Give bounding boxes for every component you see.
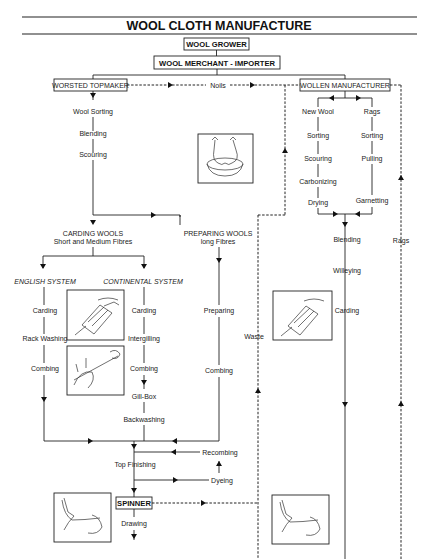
- carding-wools-subtitle: Short and Medium Fibres: [54, 238, 133, 245]
- preparing-wools-subtitle: long Fibres: [201, 238, 236, 246]
- continental-step-gill-box: Gill-Box: [132, 393, 157, 400]
- continental-system-label: CONTINENTAL SYSTEM: [103, 278, 183, 285]
- rags-side-label: Rags: [393, 237, 410, 245]
- hand-spinning-right-illustration: [272, 495, 329, 544]
- wollen-rags-garnetting: Garnetting: [356, 197, 389, 205]
- dyeing-label: Dyeing: [211, 477, 233, 485]
- wollen-rags-pulling: Pulling: [361, 155, 382, 163]
- step-preparing: Preparing: [204, 307, 234, 315]
- wollen-rags-sorting: Sorting: [361, 132, 383, 140]
- hand-spinning-left-illustration: [54, 493, 111, 542]
- wool-grower-label: WOOL GROWER: [186, 40, 247, 49]
- drawing-label: Drawing: [121, 520, 147, 528]
- worsted-topmaker-label: WORSTED TOPMAKER: [52, 82, 129, 89]
- hand-carding-illustration: [67, 290, 124, 340]
- continental-step-carding: Carding: [132, 307, 157, 315]
- wool-merchant-label: WOOL MERCHANT - IMPORTER: [159, 59, 275, 68]
- top-finishing-label: Top Finishing: [114, 461, 155, 469]
- wollen-new-wool-scouring: Scouring: [304, 155, 332, 163]
- english-step-carding: Carding: [33, 307, 58, 315]
- step-scouring: Scouring: [79, 151, 107, 159]
- english-system-label: ENGLISH SYSTEM: [14, 278, 76, 285]
- recombing-label: Recombing: [202, 449, 238, 457]
- wollen-carding: Carding: [335, 307, 360, 315]
- step-blending: Blending: [79, 130, 106, 138]
- english-step-combing: Combing: [31, 365, 59, 373]
- continental-step-backwashing: Backwashing: [123, 416, 164, 424]
- wollen-manufacturer-label: WOLLEN MANUFACTURER: [300, 82, 390, 89]
- wollen-new-wool-carbonizing: Carbonizing: [299, 178, 336, 186]
- step-wool-sorting: Wool Sorting: [73, 108, 113, 116]
- diagram-title: WOOL CLOTH MANUFACTURE: [126, 19, 311, 33]
- wollen-rags: Rags: [364, 108, 381, 116]
- waste-label: Waste: [244, 333, 264, 340]
- carding-wools-title: CARDING WOOLS: [63, 230, 124, 237]
- scouring-illustration: [198, 134, 253, 183]
- wollen-new-wool-sorting: Sorting: [307, 132, 329, 140]
- spinner-label: SPINNER: [117, 499, 151, 508]
- preparing-wools-title: PREPARING WOOLS: [184, 230, 253, 237]
- english-step-rack-washing: Rack Washing: [23, 335, 68, 343]
- wollen-blending: Blending: [333, 236, 360, 244]
- step-preparing-combing: Combing: [205, 367, 233, 375]
- continental-step-combing: Combing: [130, 365, 158, 373]
- continental-step-intergilling: Intergilling: [128, 335, 160, 343]
- noils-label: Noils: [210, 82, 226, 89]
- wollen-willeying: Willeying: [333, 267, 361, 275]
- wollen-new-wool: New Wool: [302, 108, 334, 115]
- wollen-hand-carding-illustration: [273, 291, 332, 340]
- hand-combing-illustration: [67, 346, 124, 395]
- wollen-new-wool-drying: Drying: [308, 199, 328, 207]
